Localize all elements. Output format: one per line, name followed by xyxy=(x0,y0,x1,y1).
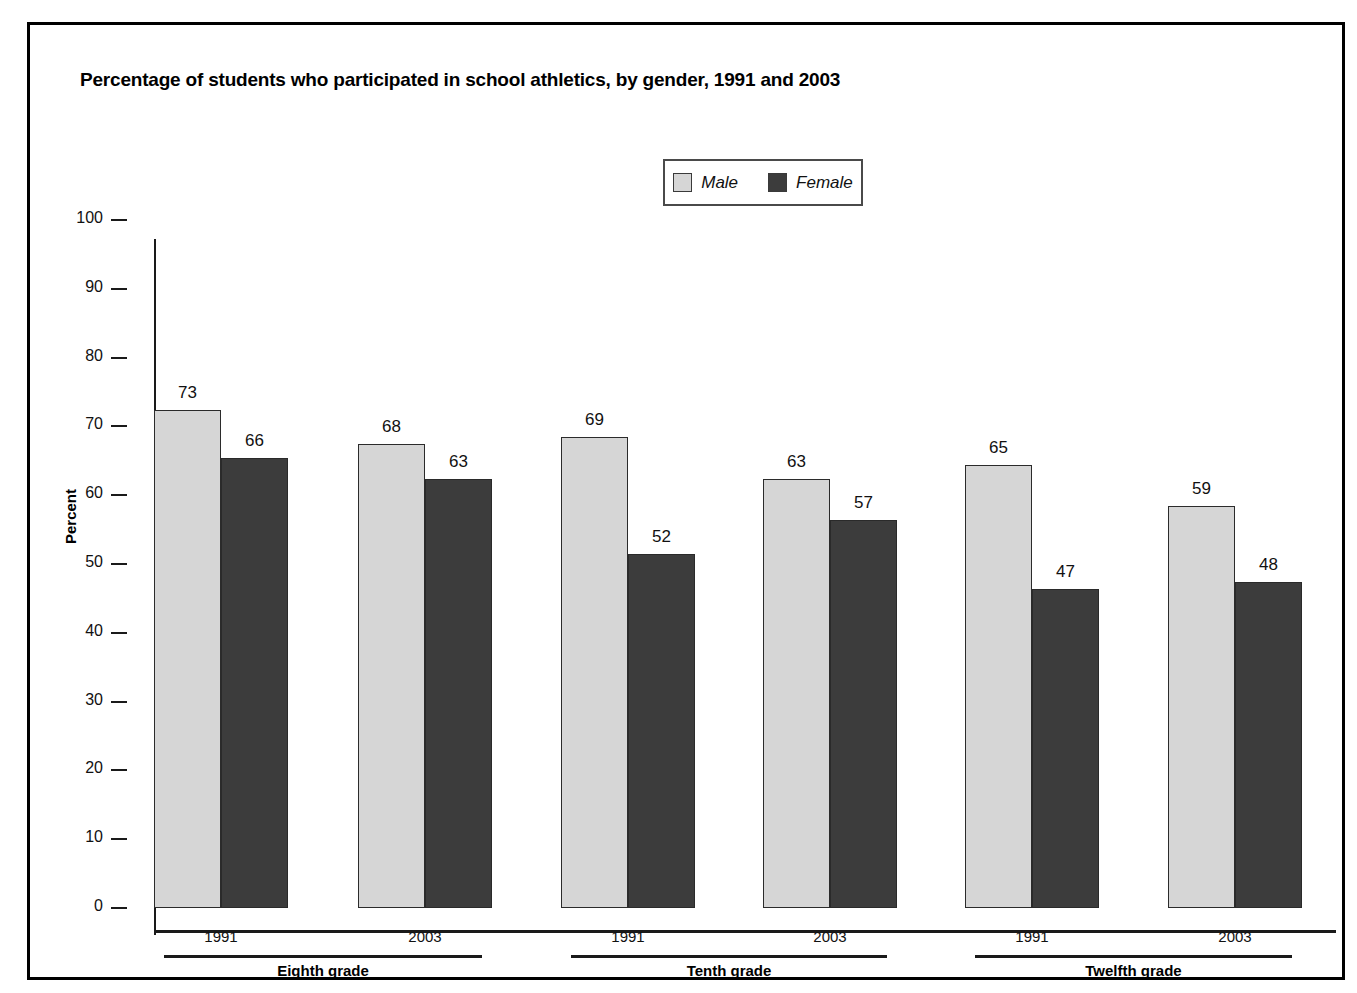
bar-eighth-grade-2003-male xyxy=(358,444,425,908)
bar-value-label: 69 xyxy=(551,410,638,430)
x-year-label-3: 2003 xyxy=(780,928,880,945)
group-label-tenth-grade: Tenth grade xyxy=(571,962,887,979)
bar-eighth-grade-1991-male xyxy=(154,410,221,908)
y-tick-10 xyxy=(111,838,127,840)
bar-value-label: 57 xyxy=(820,493,907,513)
bar-value-label: 59 xyxy=(1158,479,1245,499)
legend-item-male: Male xyxy=(673,173,738,193)
legend-swatch-male-icon xyxy=(673,173,692,192)
y-tick-label-100: 100 xyxy=(43,209,103,227)
bar-twelfth-grade-2003-female xyxy=(1235,582,1302,908)
y-tick-40 xyxy=(111,632,127,634)
group-label-eighth-grade: Eighth grade xyxy=(164,962,482,979)
x-axis-line xyxy=(154,930,1336,933)
bar-value-label: 52 xyxy=(618,527,705,547)
bar-value-label: 63 xyxy=(415,452,502,472)
legend-label-male: Male xyxy=(701,173,738,193)
group-rule-0 xyxy=(164,955,482,958)
y-tick-label-20: 20 xyxy=(43,759,103,777)
bar-twelfth-grade-1991-male xyxy=(965,465,1032,908)
bar-value-label: 48 xyxy=(1225,555,1312,575)
y-tick-label-70: 70 xyxy=(43,415,103,433)
y-tick-20 xyxy=(111,769,127,771)
x-year-label-1: 2003 xyxy=(375,928,475,945)
bar-value-label: 47 xyxy=(1022,562,1109,582)
bar-value-label: 63 xyxy=(753,452,840,472)
x-year-label-4: 1991 xyxy=(982,928,1082,945)
y-tick-30 xyxy=(111,701,127,703)
group-rule-2 xyxy=(975,955,1292,958)
y-tick-80 xyxy=(111,357,127,359)
chart-title: Percentage of students who participated … xyxy=(80,69,840,91)
bar-tenth-grade-2003-male xyxy=(763,479,830,908)
y-tick-label-10: 10 xyxy=(43,828,103,846)
bar-value-label: 65 xyxy=(955,438,1042,458)
bar-tenth-grade-1991-female xyxy=(628,554,695,908)
y-tick-100 xyxy=(111,219,127,221)
chart-legend: Male Female xyxy=(663,159,863,206)
group-rule-1 xyxy=(571,955,887,958)
bar-eighth-grade-1991-female xyxy=(221,458,288,908)
legend-swatch-female-icon xyxy=(768,173,787,192)
y-tick-label-60: 60 xyxy=(43,484,103,502)
bar-value-label: 73 xyxy=(144,383,231,403)
y-tick-label-50: 50 xyxy=(43,553,103,571)
x-year-label-5: 2003 xyxy=(1185,928,1285,945)
legend-label-female: Female xyxy=(796,173,853,193)
y-tick-label-80: 80 xyxy=(43,347,103,365)
y-tick-label-0: 0 xyxy=(43,897,103,915)
y-tick-label-30: 30 xyxy=(43,691,103,709)
bar-tenth-grade-1991-male xyxy=(561,437,628,908)
y-tick-60 xyxy=(111,494,127,496)
bar-twelfth-grade-1991-female xyxy=(1032,589,1099,908)
group-label-twelfth-grade: Twelfth grade xyxy=(975,962,1292,979)
bar-eighth-grade-2003-female xyxy=(425,479,492,908)
x-year-label-2: 1991 xyxy=(578,928,678,945)
bar-value-label: 66 xyxy=(211,431,298,451)
y-tick-70 xyxy=(111,425,127,427)
chart-frame: Percentage of students who participated … xyxy=(27,22,1345,980)
bar-tenth-grade-2003-female xyxy=(830,520,897,908)
bar-value-label: 68 xyxy=(348,417,435,437)
x-year-label-0: 1991 xyxy=(171,928,271,945)
y-tick-50 xyxy=(111,563,127,565)
y-tick-label-40: 40 xyxy=(43,622,103,640)
y-tick-90 xyxy=(111,288,127,290)
legend-item-female: Female xyxy=(768,173,853,193)
y-tick-label-90: 90 xyxy=(43,278,103,296)
y-tick-0 xyxy=(111,907,127,909)
